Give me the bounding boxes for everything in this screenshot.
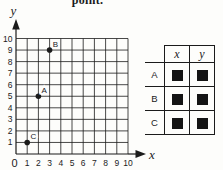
data-point-label: A [42,86,48,95]
answer-cell-a-x [165,63,190,87]
y-tick-label: 9 [8,45,13,55]
filled-square-icon [197,118,208,129]
data-point [36,93,42,99]
table-row: C [145,111,215,135]
x-tick-label: 1 [25,158,30,168]
y-tick-label: 3 [8,114,13,124]
x-tick-label: 5 [70,158,75,168]
origin-label: 0 [11,157,17,169]
x-tick-label: 2 [36,158,41,168]
answer-cell-b-x [165,87,190,111]
data-point-label: B [53,40,58,49]
x-tick-label: 4 [58,158,63,168]
filled-square-icon [197,70,208,81]
data-point [47,47,53,53]
answer-table: x y A B C [145,45,215,135]
row-label-b: B [145,87,165,111]
x-tick-label: 9 [114,158,119,168]
answer-cell-c-y [190,111,215,135]
column-header-y: y [190,46,215,63]
table-row: B [145,87,215,111]
y-axis-label: y [9,3,17,18]
table-header-row: x y [145,46,215,63]
y-tick-label: 2 [8,126,13,136]
x-tick-label: 7 [92,158,97,168]
answer-cell-b-y [190,87,215,111]
table-corner-cell [145,46,165,63]
answer-cell-a-y [190,63,215,87]
coordinate-grid-plot: yx12345678910012345678910ABC [0,0,162,170]
y-tick-label: 1 [8,137,13,147]
x-tick-label: 10 [123,158,133,168]
xy-table: x y A B C [145,45,215,135]
x-tick-label: 6 [81,158,86,168]
row-label-c: C [145,111,165,135]
y-tick-label: 6 [8,80,13,90]
filled-square-icon [172,70,183,81]
y-tick-label: 7 [8,68,13,78]
x-axis-label: x [148,147,155,162]
data-point [24,140,30,146]
y-tick-label: 4 [8,103,13,113]
filled-square-icon [172,94,183,105]
y-axis-arrow-icon [12,19,20,30]
x-tick-label: 3 [47,158,52,168]
table-row: A [145,63,215,87]
filled-square-icon [172,118,183,129]
x-tick-label: 8 [103,158,108,168]
column-header-x: x [165,46,190,63]
filled-square-icon [197,94,208,105]
answer-cell-c-x [165,111,190,135]
y-tick-label: 5 [8,91,13,101]
data-point-label: C [30,132,36,141]
y-tick-label: 10 [3,34,13,44]
x-axis-arrow-icon [136,150,147,158]
worksheet-page: point. yx12345678910012345678910ABC x y … [0,0,223,170]
row-label-a: A [145,63,165,87]
y-tick-label: 8 [8,57,13,67]
